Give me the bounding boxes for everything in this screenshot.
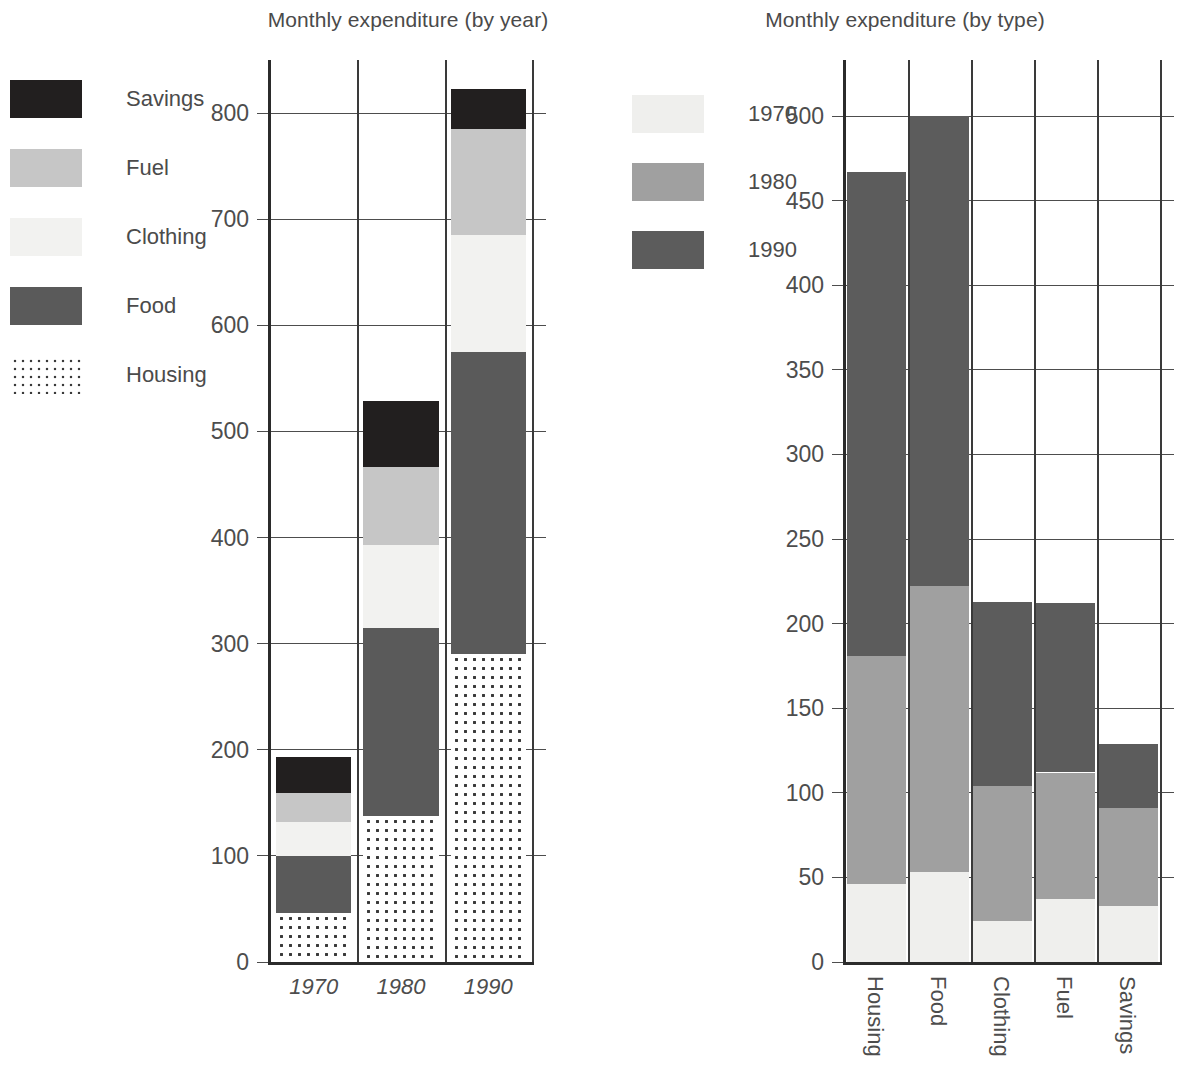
bar-segment-food	[276, 856, 351, 913]
y-axis-tick-label: 350	[762, 356, 824, 383]
legend-item-food[interactable]: Food	[10, 287, 207, 325]
y-tick-mark-outer	[532, 431, 546, 432]
y-tick-mark-outer	[532, 749, 546, 750]
x-axis-line	[268, 962, 534, 965]
y-tick-mark-outer	[1160, 792, 1174, 793]
y-tick-mark-outer	[1160, 877, 1174, 878]
x-axis-tick-label: Food	[925, 976, 951, 1026]
left-chart-legend: SavingsFuelClothingFoodHousing	[10, 80, 207, 425]
y-axis-tick-label: 200	[187, 736, 249, 763]
y-axis-tick-label: 150	[762, 695, 824, 722]
legend-item-1990[interactable]: 1990	[632, 231, 797, 269]
category-separator	[971, 60, 973, 962]
bar-segment-1980	[910, 586, 969, 872]
y-tick-mark-outer	[1160, 454, 1174, 455]
bar-1980[interactable]	[363, 401, 438, 962]
category-separator	[445, 60, 447, 962]
bar-segment-savings	[451, 89, 526, 129]
bar-segment-savings	[276, 757, 351, 793]
legend-item-housing[interactable]: Housing	[10, 356, 207, 394]
y-axis-tick-label: 700	[187, 206, 249, 233]
x-axis-tick-label: Fuel	[1051, 976, 1077, 1019]
y-axis-tick-label: 200	[762, 610, 824, 637]
bar-segment-food	[363, 628, 438, 816]
x-axis-tick-label: Savings	[1114, 976, 1140, 1054]
x-axis-tick-label: 1990	[445, 974, 532, 1000]
legend-item-fuel[interactable]: Fuel	[10, 149, 207, 187]
category-separator	[908, 60, 910, 962]
bar-segment-1980	[1099, 808, 1158, 906]
x-axis-tick-label: 1970	[270, 974, 357, 1000]
right-chart-plot-area: 050100150200250300350400450500HousingFoo…	[845, 60, 1160, 962]
bar-segment-1990	[1036, 603, 1095, 772]
y-tick-mark-outer	[532, 113, 546, 114]
bar-clothing[interactable]	[973, 602, 1032, 962]
y-axis-tick-label: 50	[762, 864, 824, 891]
x-axis-tick-label: Housing	[862, 976, 888, 1057]
bar-segment-1970	[910, 872, 969, 962]
y-axis-tick-label: 600	[187, 312, 249, 339]
food-swatch	[10, 287, 82, 325]
y-gridline	[845, 116, 1160, 117]
category-separator	[1097, 60, 1099, 962]
legend-item-label: Housing	[126, 362, 207, 388]
legend-item-label: Food	[126, 293, 176, 319]
y-axis-line	[268, 60, 271, 964]
bar-fuel[interactable]	[1036, 603, 1095, 962]
plot-right-edge	[1160, 60, 1162, 962]
bar-segment-1980	[847, 656, 906, 884]
bar-segment-1990	[910, 116, 969, 586]
y-axis-tick-label: 400	[187, 524, 249, 551]
y-axis-tick-label: 500	[762, 103, 824, 130]
y-tick-mark-outer	[532, 537, 546, 538]
y-tick-mark-outer	[1160, 116, 1174, 117]
y-tick-mark-outer	[1160, 200, 1174, 201]
y-tick-mark-outer	[532, 325, 546, 326]
fuel-swatch	[10, 149, 82, 187]
bar-segment-savings	[363, 401, 438, 468]
bar-savings[interactable]	[1099, 744, 1158, 962]
y-tick-mark-outer	[1160, 708, 1174, 709]
legend-item-label: 1990	[748, 237, 797, 263]
y-axis-tick-label: 100	[762, 779, 824, 806]
legend-item-savings[interactable]: Savings	[10, 80, 207, 118]
bar-1990[interactable]	[451, 89, 526, 962]
y-axis-tick-label: 250	[762, 526, 824, 553]
y-tick-mark-outer	[1160, 369, 1174, 370]
x-axis-line	[843, 962, 1162, 965]
bar-segment-1970	[847, 884, 906, 962]
bar-segment-clothing	[363, 545, 438, 628]
y-axis-tick-label: 300	[762, 441, 824, 468]
year-1990-swatch	[632, 231, 704, 269]
x-axis-tick-label: 1980	[357, 974, 444, 1000]
y-axis-tick-label: 0	[762, 949, 824, 976]
category-separator	[1034, 60, 1036, 962]
right-chart-title: Monthly expenditure (by type)	[740, 8, 1070, 32]
y-axis-tick-label: 450	[762, 187, 824, 214]
year-1980-swatch	[632, 163, 704, 201]
y-tick-mark-outer	[532, 643, 546, 644]
legend-item-clothing[interactable]: Clothing	[10, 218, 207, 256]
y-tick-mark-outer	[1160, 285, 1174, 286]
clothing-swatch	[10, 218, 82, 256]
y-axis-tick-label: 100	[187, 842, 249, 869]
left-chart-plot-area: 0100200300400500600700800197019801990	[270, 60, 532, 962]
category-separator	[357, 60, 359, 962]
y-axis-tick-label: 800	[187, 100, 249, 127]
bar-housing[interactable]	[847, 172, 906, 962]
y-tick-mark-outer	[1160, 623, 1174, 624]
bar-segment-food	[451, 352, 526, 654]
legend-item-label: Fuel	[126, 155, 169, 181]
bar-segment-fuel	[451, 129, 526, 235]
bar-segment-fuel	[276, 793, 351, 822]
y-tick-mark-outer	[1160, 539, 1174, 540]
y-tick-mark-outer	[532, 855, 546, 856]
x-axis-tick-label: Clothing	[988, 976, 1014, 1057]
y-axis-tick-label: 400	[762, 272, 824, 299]
bar-1970[interactable]	[276, 757, 351, 962]
y-axis-tick-label: 0	[187, 949, 249, 976]
bar-segment-1970	[1099, 906, 1158, 962]
bar-segment-housing	[276, 913, 351, 962]
bar-food[interactable]	[910, 116, 969, 962]
bar-segment-1990	[847, 172, 906, 656]
